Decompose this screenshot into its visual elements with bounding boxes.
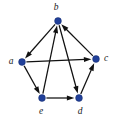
edge-arrowhead bbox=[73, 86, 78, 94]
graph-node-label-e: e bbox=[39, 106, 43, 116]
graph-edge bbox=[43, 31, 56, 93]
graph-edge bbox=[29, 24, 55, 54]
graph-canvas: baced bbox=[0, 0, 113, 119]
graph-node-e bbox=[39, 95, 46, 102]
graph-node-label-d: d bbox=[78, 106, 83, 116]
graph-edge bbox=[66, 29, 93, 56]
graph-edge bbox=[24, 66, 37, 89]
graph-edge bbox=[26, 59, 85, 61]
edge-layer bbox=[24, 24, 94, 100]
graph-node-label-c: c bbox=[104, 53, 109, 63]
directed-graph-figure: baced bbox=[0, 0, 113, 119]
edge-arrowhead bbox=[84, 57, 92, 62]
graph-edge bbox=[59, 25, 76, 88]
graph-node-a bbox=[19, 59, 26, 66]
edge-arrowhead bbox=[34, 86, 40, 94]
edge-arrowhead bbox=[67, 95, 75, 100]
graph-edge bbox=[81, 69, 92, 94]
graph-node-c bbox=[93, 56, 100, 63]
graph-node-label-a: a bbox=[9, 56, 14, 66]
graph-node-d bbox=[76, 95, 83, 102]
graph-node-b bbox=[55, 18, 62, 25]
graph-node-label-b: b bbox=[54, 2, 59, 12]
edge-arrowhead bbox=[89, 63, 94, 71]
